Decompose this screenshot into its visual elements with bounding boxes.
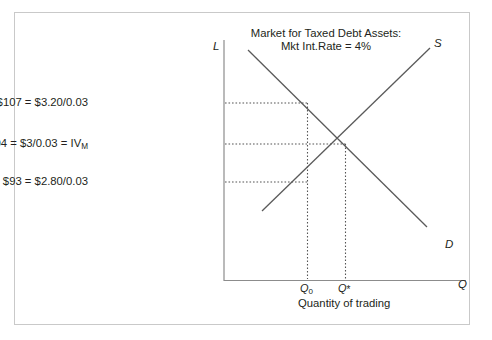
mv-subscript: M bbox=[81, 142, 88, 151]
qstar-superscript: * bbox=[347, 284, 351, 295]
qstar-symbol: Q bbox=[338, 282, 347, 294]
figure-page: Market for Taxed Debt Assets: Mkt Int.Ra… bbox=[0, 0, 492, 340]
x-axis-label: Q bbox=[458, 278, 467, 291]
y-axis-label: L bbox=[213, 40, 219, 53]
chart-title-line1: Market for Taxed Debt Assets: bbox=[251, 27, 401, 39]
chart-title: Market for Taxed Debt Assets: Mkt Int.Ra… bbox=[238, 27, 414, 53]
demand-curve-label: D bbox=[445, 238, 453, 251]
ivc-value-label: IVC = $93 = $2.80/0.03 bbox=[0, 175, 88, 188]
ivc-expression: = $93 = $2.80/0.03 bbox=[0, 175, 88, 187]
iva-expression: = $107 = $3.20/0.03 bbox=[0, 96, 88, 108]
q0-symbol: Q bbox=[300, 282, 309, 294]
x-axis-caption: Quantity of trading bbox=[298, 297, 390, 310]
mv-value-label: MV = $100 = $4/0.04 = $3/0.03 = IVM bbox=[0, 137, 88, 150]
x-tick-q0: Q0 bbox=[300, 282, 313, 295]
x-tick-qstar: Q* bbox=[338, 282, 350, 295]
q0-subscript: 0 bbox=[309, 287, 313, 296]
supply-curve-label: S bbox=[434, 37, 442, 50]
chart-title-line2: Mkt Int.Rate = 4% bbox=[238, 40, 414, 53]
iva-value-label: IVA = $107 = $3.20/0.03 bbox=[0, 96, 88, 109]
mv-expression: MV = $100 = $4/0.04 = $3/0.03 = IV bbox=[0, 137, 81, 149]
